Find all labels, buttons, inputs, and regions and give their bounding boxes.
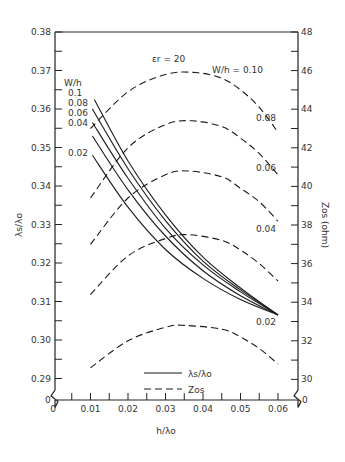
y-right-tick-label: 48 (301, 27, 313, 37)
y-left-tick-label: 0.36 (31, 104, 51, 114)
lambda-curve-label: 0.08 (68, 98, 88, 108)
y-right-tick-label: 32 (301, 336, 312, 346)
x-tick-label: 0.06 (268, 404, 288, 414)
y-right-axis-label: Zos (ohm) (320, 202, 330, 248)
lambda-curve (92, 109, 278, 315)
y-right-tick-label: 30 (301, 374, 313, 384)
x-tick-label: 0.01 (80, 404, 100, 414)
solid-group-label: W/h (64, 78, 82, 88)
legend-solid-label: λs/λo (188, 369, 212, 379)
y-right-tick-label: 42 (301, 143, 312, 153)
lambda-curve-label: 0.02 (68, 148, 88, 158)
zos-curve-label: W/h = 0.10 (212, 65, 263, 75)
y-left-tick-label: 0.32 (31, 258, 51, 268)
zos-curve-label: 0.08 (256, 113, 276, 123)
x-tick-label: 0.04 (193, 404, 213, 414)
legend: λs/λo Zos (144, 369, 212, 395)
lambda-curve-label: 0.04 (68, 118, 88, 128)
y-left-axis-label: λs/λo (14, 213, 24, 237)
y-right-tick-label: 44 (301, 104, 313, 114)
y-left-tick-label: 0.31 (31, 297, 51, 307)
y-left-tick-label: 0.38 (31, 27, 51, 37)
y-right-tick-label: 36 (301, 259, 313, 269)
legend-dashed-label: Zos (188, 385, 205, 395)
zos-curve (91, 325, 279, 368)
lambda-curve (92, 123, 278, 316)
x-tick-label: 0 (50, 404, 56, 414)
right-axis (294, 32, 301, 407)
lambda-curve-label: 0.06 (68, 108, 88, 118)
x-tick-label: 0.05 (230, 404, 250, 414)
y-right-tick-label: 38 (301, 220, 313, 230)
y-right-tick-label: 46 (301, 66, 313, 76)
x-tick-label: 0.02 (118, 404, 138, 414)
y-left-tick-label: 0.29 (31, 374, 51, 384)
zos-curve-label: 0.06 (256, 163, 276, 173)
y-left-tick-label: 0.35 (31, 143, 51, 153)
zos-curve (91, 72, 279, 132)
x-axis-label: h/λo (156, 426, 176, 436)
y-left-tick-label: 0.33 (31, 220, 51, 230)
lambda-curve-label: 0.1 (68, 88, 82, 98)
x-tick-label: 0.03 (155, 404, 175, 414)
y-left-tick-label: 0.34 (31, 181, 51, 191)
zos-curve (91, 171, 279, 245)
zos-curve-label: 0.04 (256, 224, 276, 234)
right-origin-label: 0 (302, 395, 308, 405)
chart: 0.290.300.310.320.330.340.350.360.370.38… (0, 0, 345, 462)
lambda-curve (94, 99, 278, 315)
y-right-tick-label: 40 (301, 181, 313, 191)
y-left-tick-label: 0.37 (31, 66, 51, 76)
epsilon-annotation: εr = 20 (152, 54, 186, 64)
zos-curve-label: 0.02 (256, 317, 276, 327)
y-right-tick-label: 34 (301, 297, 313, 307)
left-axis (51, 32, 58, 407)
zos-curve (91, 121, 279, 198)
y-left-tick-label: 0.30 (31, 335, 51, 345)
series: 0.10.080.060.040.02W/h = 0.100.080.060.0… (68, 65, 278, 368)
lambda-curve (92, 136, 278, 315)
left-origin-label: 0 (45, 395, 51, 405)
